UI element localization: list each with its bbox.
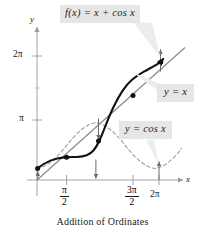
x-tick-label-2pi: 2π: [150, 190, 160, 200]
point-x0: [35, 166, 40, 171]
fraction-denominator: 2: [60, 198, 69, 208]
figure-addition-of-ordinates: y x 2π π 2π π 2 3π 2 f(x) = x + cos x y …: [0, 0, 205, 236]
point-x-pi-over-2: [64, 155, 69, 160]
y-axis-label: y: [30, 15, 34, 24]
ordinate-arrows-group: [38, 50, 161, 181]
point-x-3pi-over-2: [131, 93, 136, 98]
leader-fx: [133, 22, 161, 58]
callout-label-y-equals-cos-x: y = cos x: [119, 121, 172, 139]
plot-area: [0, 0, 205, 236]
fraction-numerator: 3π: [125, 186, 139, 196]
fraction-pi-over-2: π 2: [60, 186, 69, 207]
figure-caption: Addition of Ordinates: [0, 216, 205, 227]
marked-points-group: [35, 60, 163, 172]
axes-group: [27, 27, 183, 196]
callout-label-f-of-x: f(x) = x + cos x: [60, 5, 140, 23]
point-x-pi: [96, 139, 101, 144]
y-tick-label-2pi: 2π: [13, 50, 23, 60]
fraction-numerator: π: [60, 186, 69, 196]
x-tick-label-3pi-over-2: 3π 2: [125, 186, 139, 207]
x-tick-label-pi-over-2: π 2: [60, 186, 69, 207]
fraction-denominator: 2: [125, 198, 139, 208]
fraction-3pi-over-2: 3π 2: [125, 186, 139, 207]
point-x-2pi: [158, 60, 163, 65]
x-axis-label: x: [186, 175, 190, 184]
leader-ycos: [146, 140, 159, 164]
callout-label-y-equals-x: y = x: [157, 84, 194, 102]
curve-f-of-x-main: [37, 59, 163, 169]
y-tick-label-pi: π: [19, 114, 24, 124]
